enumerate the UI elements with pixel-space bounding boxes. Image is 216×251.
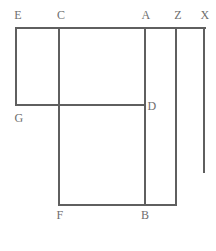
vertex-label-X: X [201,9,210,21]
vertex-label-B: B [141,209,149,221]
vertex-label-Z: Z [174,9,182,21]
rectilinear-polygon-diagram: E C A Z X D G F B [0,0,216,251]
diagram-canvas [0,0,216,251]
vertex-label-D: D [148,100,157,112]
vertex-label-F: F [57,209,64,221]
segment-layer [16,28,205,205]
vertex-label-E: E [14,9,22,21]
vertex-label-G: G [15,112,24,124]
vertex-label-C: C [57,9,65,21]
vertex-label-A: A [142,9,151,21]
